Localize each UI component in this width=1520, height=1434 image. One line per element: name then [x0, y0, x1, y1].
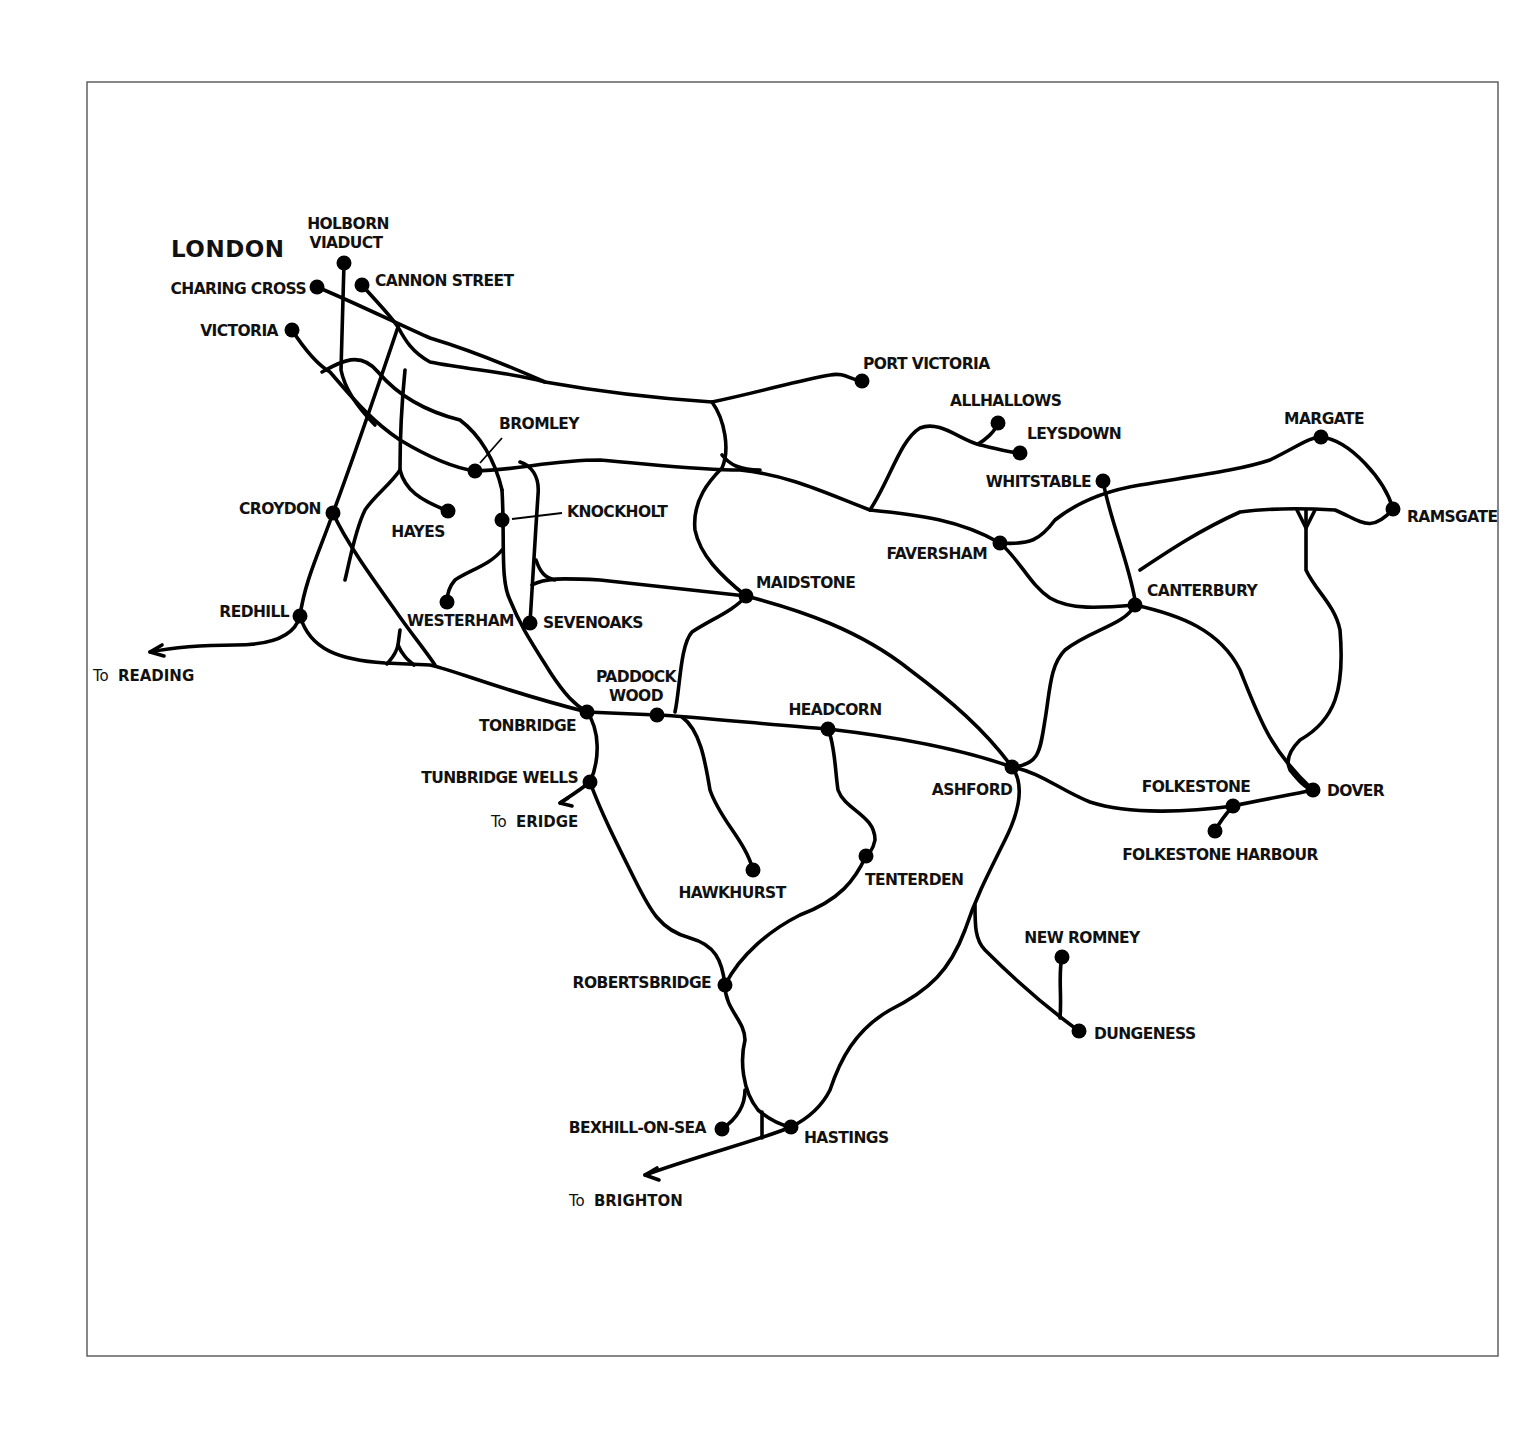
station-dot-hawkhurst[interactable]: [746, 863, 761, 878]
label-folkestone: FOLKESTONE: [1142, 778, 1251, 796]
label-faversham: FAVERSHAM: [887, 545, 987, 563]
station-dot-canterbury[interactable]: [1128, 598, 1143, 613]
station-dot-whitstable[interactable]: [1096, 474, 1111, 489]
station-dot-charing-cross[interactable]: [310, 280, 325, 295]
label-charing-cross: CHARING CROSS: [171, 280, 307, 298]
label-ashford: ASHFORD: [932, 781, 1013, 799]
station-dot-robertsbridge[interactable]: [718, 978, 733, 993]
connection-eridge-destination: ERIDGE: [516, 813, 578, 831]
station-dot-holborn-viaduct[interactable]: [337, 256, 352, 271]
connection-eridge-prefix: To: [490, 813, 507, 831]
connection-brighton-destination: BRIGHTON: [594, 1192, 683, 1210]
station-dot-ramsgate[interactable]: [1386, 502, 1401, 517]
station-labels: LONDON HOLBORN VIADUCT CANNON STREET CHA…: [92, 215, 1497, 1210]
label-whitstable: WHITSTABLE: [986, 473, 1091, 491]
label-leysdown: LEYSDOWN: [1027, 425, 1121, 443]
label-port-victoria: PORT VICTORIA: [863, 355, 990, 373]
label-canterbury: CANTERBURY: [1147, 582, 1259, 600]
station-dot-croydon[interactable]: [326, 506, 341, 521]
label-hawkhurst: HAWKHURST: [678, 884, 786, 902]
station-dot-sevenoaks[interactable]: [523, 616, 538, 631]
station-dot-ashford[interactable]: [1005, 760, 1020, 775]
railway-map: LONDON HOLBORN VIADUCT CANNON STREET CHA…: [0, 0, 1520, 1434]
label-croydon: CROYDON: [239, 500, 321, 518]
label-westerham: WESTERHAM: [407, 612, 514, 630]
label-knockholt: KNOCKHOLT: [567, 503, 668, 521]
station-dot-hayes[interactable]: [441, 504, 456, 519]
station-dot-maidstone[interactable]: [739, 589, 754, 604]
station-dot-margate[interactable]: [1314, 430, 1329, 445]
label-paddock-wood-1: PADDOCK: [596, 668, 678, 686]
connection-reading-destination: READING: [118, 667, 194, 685]
station-dot-folkestone-harbour[interactable]: [1208, 824, 1223, 839]
label-dover: DOVER: [1327, 782, 1385, 800]
station-dot-bexhill-on-sea[interactable]: [715, 1122, 730, 1137]
connection-reading: To READING: [92, 666, 194, 685]
station-dot-hastings[interactable]: [784, 1120, 799, 1135]
label-paddock-wood-2: WOOD: [609, 687, 664, 705]
label-new-romney: NEW ROMNEY: [1024, 929, 1141, 947]
stations: [285, 256, 1401, 1137]
station-dot-dungeness[interactable]: [1072, 1024, 1087, 1039]
label-cannon-street: CANNON STREET: [375, 272, 515, 290]
station-dot-headcorn[interactable]: [821, 722, 836, 737]
station-dot-allhallows[interactable]: [991, 416, 1006, 431]
station-dot-leysdown[interactable]: [1013, 446, 1028, 461]
station-dot-cannon-street[interactable]: [355, 278, 370, 293]
label-redhill: REDHILL: [219, 603, 289, 621]
label-tonbridge: TONBRIDGE: [479, 717, 576, 735]
label-victoria: VICTORIA: [200, 322, 278, 340]
map-title: LONDON: [171, 236, 285, 262]
label-bexhill-on-sea: BEXHILL-ON-SEA: [569, 1119, 707, 1137]
station-dot-dover[interactable]: [1306, 783, 1321, 798]
label-dungeness: DUNGENESS: [1094, 1025, 1196, 1043]
connection-brighton: To BRIGHTON: [568, 1191, 683, 1210]
label-margate: MARGATE: [1284, 410, 1364, 428]
label-sevenoaks: SEVENOAKS: [543, 614, 643, 632]
label-ramsgate: RAMSGATE: [1407, 508, 1497, 526]
station-dot-bromley[interactable]: [468, 464, 483, 479]
station-dot-knockholt[interactable]: [495, 513, 510, 528]
station-dot-paddock-wood[interactable]: [650, 708, 665, 723]
connection-brighton-prefix: To: [568, 1192, 585, 1210]
label-folkestone-harbour: FOLKESTONE HARBOUR: [1122, 846, 1318, 864]
label-robertsbridge: ROBERTSBRIDGE: [573, 974, 711, 992]
label-tunbridge-wells: TUNBRIDGE WELLS: [421, 769, 578, 787]
label-tenterden: TENTERDEN: [865, 871, 963, 889]
label-hayes: HAYES: [391, 523, 445, 541]
label-hastings: HASTINGS: [804, 1129, 889, 1147]
station-dot-new-romney[interactable]: [1055, 950, 1070, 965]
label-bromley: BROMLEY: [499, 415, 580, 433]
station-dot-tonbridge[interactable]: [580, 705, 595, 720]
station-dot-tenterden[interactable]: [859, 849, 874, 864]
station-dot-westerham[interactable]: [440, 595, 455, 610]
station-dot-port-victoria[interactable]: [855, 374, 870, 389]
railway-tracks: [150, 263, 1393, 1180]
station-dot-victoria[interactable]: [285, 323, 300, 338]
station-dot-folkestone[interactable]: [1226, 799, 1241, 814]
station-dot-redhill[interactable]: [293, 609, 308, 624]
label-maidstone: MAIDSTONE: [756, 574, 855, 592]
connection-reading-prefix: To: [92, 667, 109, 685]
station-dot-faversham[interactable]: [993, 536, 1008, 551]
label-holborn-viaduct-1: HOLBORN: [307, 215, 389, 233]
map-frame: [87, 82, 1498, 1356]
label-allhallows: ALLHALLOWS: [950, 392, 1062, 410]
station-dot-tunbridge-wells[interactable]: [583, 775, 598, 790]
label-headcorn: HEADCORN: [788, 701, 881, 719]
connection-eridge: To ERIDGE: [490, 812, 578, 831]
label-holborn-viaduct-2: VIADUCT: [310, 234, 384, 252]
